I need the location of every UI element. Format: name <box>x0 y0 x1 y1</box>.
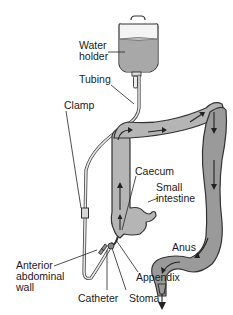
appendix <box>108 236 118 249</box>
label-caecum: Caecum <box>135 165 174 177</box>
label-anus: Anus <box>172 241 196 253</box>
label-appendix: Appendix <box>136 271 181 283</box>
water-fill <box>120 38 158 72</box>
leader-clamp <box>66 111 81 208</box>
drip-chamber <box>134 76 138 88</box>
bag-hanger <box>131 16 145 20</box>
label-water-holder-2: holder <box>79 50 109 62</box>
clamp <box>82 208 89 218</box>
label-stoma: Stoma <box>129 292 160 304</box>
label-tubing: Tubing <box>79 73 111 85</box>
label-small-intestine-2: intestine <box>156 192 195 204</box>
label-anterior-3: wall <box>15 281 34 293</box>
leader-anterior-wall <box>54 250 97 266</box>
leader-tubing <box>111 85 134 104</box>
leader-stoma <box>112 248 126 290</box>
stoma <box>108 243 114 249</box>
ascending-colon <box>111 128 156 238</box>
water-surface <box>120 38 158 41</box>
label-clamp: Clamp <box>64 99 95 111</box>
leader-appendix <box>116 240 138 272</box>
colon-irrigation-diagram: Water holder Tubing Clamp Caecum Small i… <box>0 0 233 315</box>
label-catheter: Catheter <box>78 292 119 304</box>
